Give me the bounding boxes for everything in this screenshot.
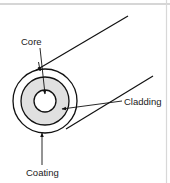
label-core: Core [21, 36, 42, 47]
optical-fiber-diagram: Core Cladding Coating [0, 0, 170, 183]
label-cladding: Cladding [124, 96, 162, 107]
upper-edge-line [33, 16, 128, 72]
diagram-canvas: Core Cladding Coating [0, 0, 170, 183]
label-coating: Coating [26, 167, 59, 178]
